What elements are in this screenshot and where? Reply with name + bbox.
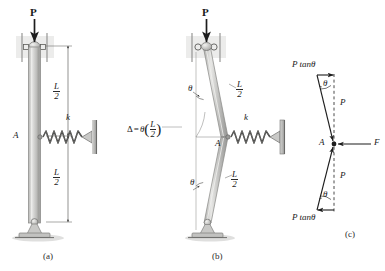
- dim-upper-b-denominator: 2: [236, 89, 243, 99]
- point-label-c: A: [319, 138, 325, 147]
- dimension-upper-b: [229, 84, 236, 88]
- panel-a-graphics: [12, 19, 97, 241]
- deflection-numerator: L: [149, 120, 156, 129]
- dimension-label-lower-a: L 2: [53, 168, 60, 187]
- dim-lower-b-denominator: 2: [231, 179, 238, 189]
- dimension-label-upper-a: L 2: [53, 82, 60, 101]
- spring-label-a: k: [66, 113, 70, 122]
- angle-label-top-c: θ: [323, 79, 327, 88]
- angle-label-upper-b: θ: [188, 84, 192, 93]
- spring-label-b: k: [244, 113, 248, 122]
- spring-force-label-c: F: [374, 138, 380, 147]
- load-label-a: P: [30, 7, 37, 18]
- dim-upper-a-denominator: 2: [53, 91, 60, 101]
- dim-lower-a-denominator: 2: [53, 177, 60, 187]
- deflection-equation-b: Δ = θ ( L 2 ): [127, 120, 161, 139]
- angle-label-lower-b: θ: [190, 178, 194, 187]
- force-label-top-horizontal: P tanθ: [292, 60, 316, 69]
- deflection-denominator: 2: [150, 129, 157, 139]
- point-label-a: A: [13, 131, 19, 140]
- force-label-bottom-horizontal: P tanθ: [292, 213, 316, 222]
- dimension-label-lower-b: L 2: [231, 170, 238, 189]
- deflection-close-paren: ): [156, 122, 161, 137]
- spring-a: [38, 120, 97, 154]
- base-pin-support-b: [188, 219, 227, 237]
- caption-b: (b): [212, 252, 223, 261]
- spring-b: [226, 120, 285, 154]
- force-label-bottom-axial: P: [340, 171, 346, 180]
- panel-b-graphics: [162, 19, 285, 241]
- caption-c: (c): [345, 230, 355, 239]
- dim-lower-a-numerator: L: [53, 168, 60, 177]
- dim-lower-b-numerator: L: [231, 170, 238, 179]
- angle-label-bottom-c: θ: [323, 190, 327, 199]
- point-label-b: A: [215, 139, 221, 148]
- dim-upper-a-numerator: L: [53, 82, 60, 91]
- figure-column-buckling: P A k L 2 L 2 (a) P A k θ θ L 2 L 2 Δ =: [0, 0, 385, 271]
- deflection-equals: =: [133, 125, 140, 134]
- dimension-label-upper-b: L 2: [236, 80, 243, 99]
- figure-vector-layer: [0, 0, 385, 271]
- base-pin-support-a: [15, 219, 54, 238]
- caption-a: (a): [43, 252, 53, 261]
- load-label-b: P: [202, 7, 209, 18]
- dim-upper-b-numerator: L: [236, 80, 243, 89]
- fbd-lower-resultant: [317, 147, 333, 210]
- force-label-top-axial: P: [340, 98, 346, 107]
